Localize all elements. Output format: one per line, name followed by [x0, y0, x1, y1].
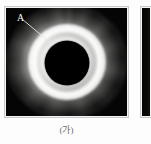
eclipse-photograph: A	[6, 8, 127, 116]
panel-adjacent-partial	[140, 6, 151, 118]
leader-line-icon	[6, 8, 127, 116]
adjacent-photo-edge	[142, 8, 150, 116]
figure-root: A (가)	[0, 0, 151, 144]
corona-label-a: A	[17, 13, 24, 23]
panel-eclipse-photo: A	[4, 6, 129, 118]
panel-caption-ga: (가)	[4, 124, 129, 136]
